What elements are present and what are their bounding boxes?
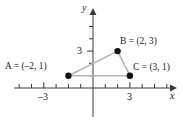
y-axis-ticks [87, 27, 93, 76]
point-b-label: B = (2, 3) [120, 37, 157, 47]
point-a-label: A = (–2, 1) [5, 62, 47, 72]
point-a-dot [65, 73, 71, 79]
x-axis-label: x [170, 91, 174, 101]
y-tick-label-3: 3 [77, 46, 82, 56]
y-axis-arrow-icon [90, 8, 97, 15]
figure-canvas: y x –3 3 3 A = (–2, 1) B = (2, 3) C = (3… [0, 0, 183, 121]
point-b-dot [114, 48, 120, 54]
y-axis-label: y [82, 3, 86, 13]
point-c-label: C = (3, 1) [133, 63, 170, 73]
x-tick-label-neg3: –3 [38, 92, 48, 102]
point-c-dot [127, 73, 133, 79]
x-tick-label-pos3: 3 [127, 92, 132, 102]
segment-bc [118, 51, 130, 76]
